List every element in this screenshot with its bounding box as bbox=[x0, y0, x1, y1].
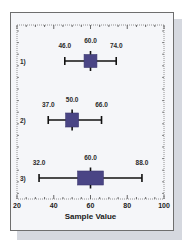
max-value-label: 66.0 bbox=[95, 101, 108, 108]
median-value-label: 60.0 bbox=[84, 37, 97, 44]
category-label: 1) bbox=[20, 58, 26, 66]
box-plot: 20406080100 Sample Value 1)46.060.074.02… bbox=[0, 0, 189, 248]
box-series-2: 2)37.050.066.0 bbox=[20, 96, 108, 131]
median-value-label: 50.0 bbox=[66, 96, 79, 103]
category-label: 2) bbox=[20, 117, 26, 125]
min-value-label: 46.0 bbox=[58, 42, 71, 49]
min-value-label: 32.0 bbox=[33, 159, 46, 166]
iqr-box bbox=[66, 113, 79, 127]
median-value-label: 60.0 bbox=[84, 154, 97, 161]
min-value-label: 37.0 bbox=[42, 101, 55, 108]
x-axis-tick-labels: 20406080100 bbox=[13, 202, 170, 209]
x-tick-label: 80 bbox=[123, 202, 131, 209]
x-axis-title: Sample Value bbox=[65, 212, 117, 221]
max-value-label: 74.0 bbox=[110, 42, 123, 49]
x-tick-label: 20 bbox=[13, 202, 21, 209]
category-label: 3) bbox=[20, 175, 26, 183]
max-value-label: 88.0 bbox=[136, 159, 149, 166]
box-series: 1)46.060.074.02)37.050.066.03)32.060.088… bbox=[20, 37, 149, 189]
iqr-box bbox=[78, 171, 104, 185]
x-tick-label: 40 bbox=[50, 202, 58, 209]
x-tick-label: 100 bbox=[158, 202, 170, 209]
iqr-box bbox=[84, 55, 97, 68]
x-tick-label: 60 bbox=[87, 202, 95, 209]
box-series-1: 1)46.060.074.0 bbox=[20, 37, 123, 71]
box-series-3: 3)32.060.088.0 bbox=[20, 154, 149, 189]
